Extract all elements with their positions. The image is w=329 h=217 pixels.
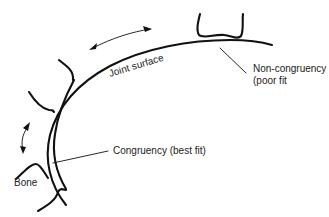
arrowhead-right-icon — [143, 26, 152, 32]
bone-piece-top-right — [197, 14, 243, 38]
bone-flange-middle — [29, 92, 54, 112]
joint-surface-curve — [48, 40, 272, 205]
bone-flange-upper — [59, 60, 73, 80]
label-congruency: Congruency (best fit) — [113, 145, 206, 156]
label-poor-fit: (poor fit — [253, 75, 287, 86]
label-bone: Bone — [14, 177, 38, 188]
label-non-congruency: Non-congruency — [253, 63, 326, 74]
movement-arrow-left — [20, 122, 30, 154]
movement-arrow-top — [89, 26, 152, 50]
leader-line-non-congruency — [220, 48, 246, 73]
joint-congruency-diagram: Joint surface Non-congruency (poor fit C… — [0, 0, 329, 217]
arrowhead-up-icon — [23, 122, 30, 131]
arrowhead-left-icon — [89, 43, 97, 50]
arrowhead-down-icon — [20, 146, 26, 154]
leader-line-congruency — [53, 151, 108, 163]
